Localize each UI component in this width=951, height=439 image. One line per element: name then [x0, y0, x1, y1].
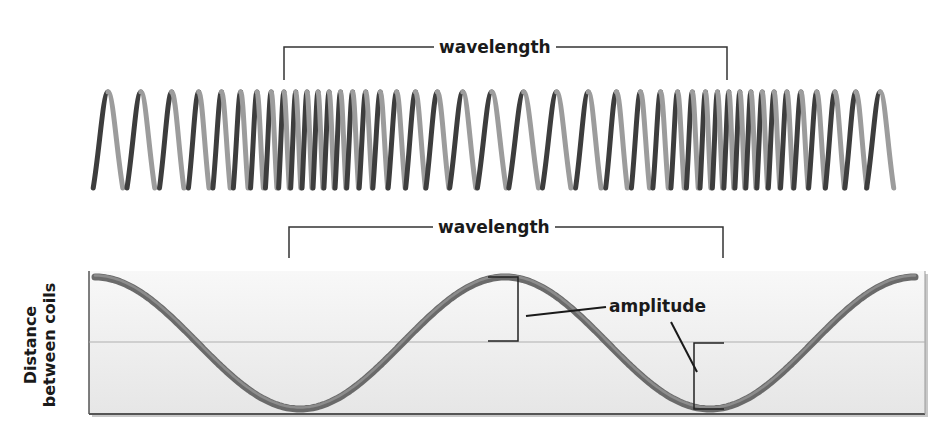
y-axis-label: Distance between coils	[0, 324, 112, 366]
graph-box	[89, 271, 928, 417]
amplitude-label: amplitude	[609, 296, 706, 316]
y-axis-label-line1: Distance	[21, 275, 40, 415]
top-wavelength-label: wavelength	[434, 37, 556, 57]
spring-coil	[93, 92, 893, 188]
y-axis-label-line2: between coils	[40, 275, 59, 415]
bottom-wavelength-label: wavelength	[433, 217, 555, 237]
